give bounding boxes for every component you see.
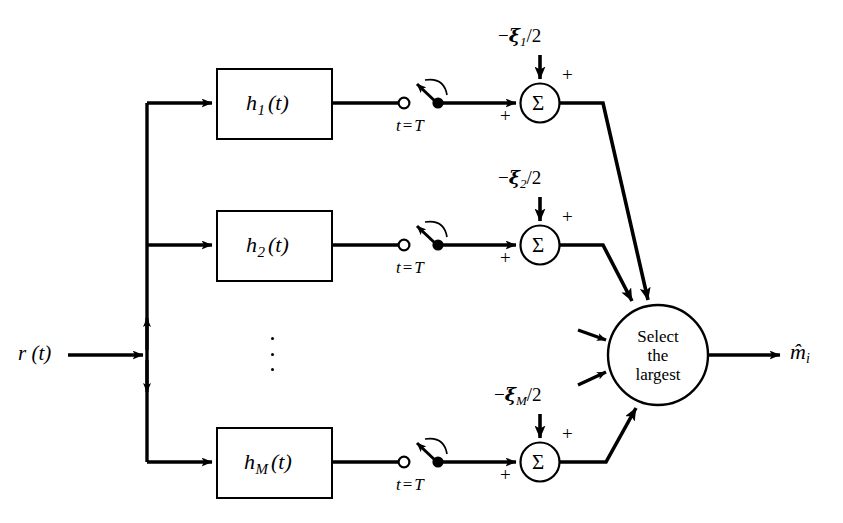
filter-arg-1: (t) xyxy=(265,90,289,115)
bias-div-2: /2 xyxy=(526,167,541,188)
filter-label-M: hM(t) xyxy=(244,451,292,477)
sampler-open-contact-2 xyxy=(399,240,410,251)
bias-xi-1: ξ xyxy=(509,24,520,46)
filter-index-2: 2 xyxy=(257,244,265,260)
output-symbol: m̂ xyxy=(790,339,806,364)
branch-2-path xyxy=(147,197,632,301)
bias-minus-M: − xyxy=(494,384,505,405)
bias-xi-M: ξ xyxy=(505,383,516,405)
bias-minus-1: − xyxy=(498,25,509,46)
bias-div-1: /2 xyxy=(526,25,541,46)
filter-index-1: 1 xyxy=(257,102,265,118)
filter-base-2: h xyxy=(246,232,257,257)
vertical-ellipsis xyxy=(271,337,274,371)
bias-label-1: −ξ1/2 xyxy=(498,26,541,48)
sum-symbol-M: Σ xyxy=(532,452,544,473)
sum-plus-left-2: + xyxy=(500,248,511,267)
output-label: m̂i xyxy=(790,341,810,366)
sampler-label-1: t=T xyxy=(396,117,424,134)
sum-plus-left-1: + xyxy=(500,106,511,125)
sum-plus-top-1: + xyxy=(562,65,573,84)
filter-base-M: h xyxy=(244,449,255,474)
sampler-pivot-2 xyxy=(432,239,443,250)
bias-minus-2: − xyxy=(498,167,509,188)
output-sub: i xyxy=(806,351,810,366)
ellipsis-dot xyxy=(271,368,274,371)
filter-arg-M: (t) xyxy=(268,449,292,474)
filter-index-M: M xyxy=(255,461,268,477)
bias-label-M: −ξM/2 xyxy=(494,385,542,407)
sampler-open-contact-1 xyxy=(399,98,410,109)
sampler-val-M: T xyxy=(414,475,423,494)
figure-canvas: r (t) h1(t) t=T −ξ1/2 Σ + + h2(t) t=T −ξ… xyxy=(0,0,843,523)
filter-label-2: h2(t) xyxy=(246,234,289,260)
sampler-eq-2: = xyxy=(401,258,415,277)
sampler-pivot-M xyxy=(432,456,443,467)
sum-plus-left-M: + xyxy=(500,465,511,484)
input-signal-label: r (t) xyxy=(18,343,51,364)
sampler-pivot-1 xyxy=(432,97,443,108)
intermediate-branch-arrows xyxy=(578,330,606,385)
bias-xi-2: ξ xyxy=(509,166,520,188)
bias-label-2: −ξ2/2 xyxy=(498,168,541,190)
decision-line-1: Select xyxy=(618,327,698,346)
sum-plus-top-M: + xyxy=(562,424,573,443)
sampler-val-2: T xyxy=(414,258,423,277)
sampler-open-contact-M xyxy=(399,457,410,468)
sum-plus-top-2: + xyxy=(562,207,573,226)
sum-symbol-2: Σ xyxy=(532,235,544,256)
decision-line-3: largest xyxy=(618,365,698,384)
decision-label: Select the largest xyxy=(618,327,698,384)
filter-arg-2: (t) xyxy=(265,232,289,257)
sampler-eq-1: = xyxy=(401,116,415,135)
sampler-val-1: T xyxy=(414,116,423,135)
bias-div-M: /2 xyxy=(527,384,542,405)
ellipsis-dot xyxy=(271,337,274,340)
filter-base-1: h xyxy=(246,90,257,115)
sampler-label-2: t=T xyxy=(396,259,424,276)
bias-sub-M: M xyxy=(516,393,527,408)
decision-line-2: the xyxy=(618,346,698,365)
sum-symbol-1: Σ xyxy=(532,93,544,114)
ellipsis-dot xyxy=(271,353,274,356)
sampler-label-M: t=T xyxy=(396,476,424,493)
filter-label-1: h1(t) xyxy=(246,92,289,118)
branch-M-path xyxy=(147,408,636,498)
sampler-eq-M: = xyxy=(401,475,415,494)
